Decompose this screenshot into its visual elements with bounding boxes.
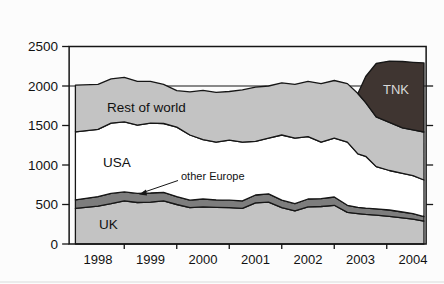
x-axis-tick-label: 2002 bbox=[294, 252, 323, 267]
chart-page: kb/day 050010001500200025001998199920002… bbox=[0, 0, 444, 284]
x-axis-tick-label: 2001 bbox=[241, 252, 270, 267]
x-axis-tick-label: 2004 bbox=[399, 252, 428, 267]
x-axis-tick-label: 1999 bbox=[136, 252, 165, 267]
x-axis-tick-label: 2000 bbox=[189, 252, 218, 267]
series-label-uk: UK bbox=[99, 217, 118, 232]
y-axis-tick-label: 1500 bbox=[28, 118, 58, 133]
x-axis-tick-label: 2003 bbox=[346, 252, 375, 267]
y-axis-tick-label: 500 bbox=[36, 197, 59, 212]
series-label-tnk: TNK bbox=[383, 82, 409, 97]
y-axis-tick-label: 2500 bbox=[28, 39, 58, 54]
scan-edge-artifact bbox=[0, 281, 444, 283]
x-axis-tick-label: 1998 bbox=[84, 252, 113, 267]
series-label-rest-of-world: Rest of world bbox=[107, 100, 186, 115]
y-axis-tick-label: 2000 bbox=[28, 79, 58, 94]
series-label-usa: USA bbox=[103, 155, 131, 170]
y-axis-tick-label: 0 bbox=[51, 237, 59, 252]
annotation-other-europe: other Europe bbox=[181, 170, 245, 182]
y-axis-tick-label: 1000 bbox=[28, 158, 58, 173]
stacked-area-chart: 0500100015002000250019981999200020012002… bbox=[0, 0, 444, 284]
